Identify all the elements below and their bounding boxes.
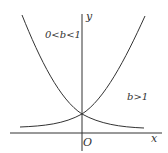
- origin-label: O: [83, 136, 92, 149]
- label-increasing-condition: b>1: [127, 91, 148, 102]
- y-axis-label: y: [85, 10, 93, 23]
- exponential-graph: y x O 0<b<1 b>1: [0, 0, 168, 153]
- label-decreasing-condition: 0<b<1: [45, 29, 81, 40]
- curve-decreasing: [22, 15, 144, 128]
- x-axis-label: x: [151, 132, 158, 145]
